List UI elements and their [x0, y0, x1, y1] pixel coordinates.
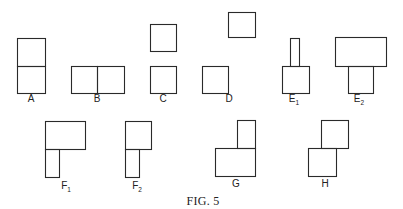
- shape-label-c: C: [159, 93, 166, 104]
- shape-g: G: [216, 121, 256, 190]
- shape-a: A: [18, 39, 46, 105]
- shape-h-square-2: [309, 149, 337, 177]
- shape-b-square-1: [72, 67, 98, 94]
- shape-a-square-1: [18, 39, 46, 67]
- shape-e2-square-2: [349, 67, 374, 94]
- shape-f1-square-1: [46, 122, 86, 150]
- shape-f2-square-2: [126, 150, 140, 178]
- shape-f2: F2: [126, 122, 152, 193]
- shape-c: C: [151, 25, 177, 105]
- shape-label-a: A: [28, 93, 35, 104]
- shape-h-square-1: [322, 121, 349, 149]
- shape-e1-square-1: [291, 39, 300, 67]
- shape-label-g: G: [232, 178, 240, 189]
- shape-label-subscript: 2: [138, 186, 142, 193]
- shape-g-square-1: [238, 121, 256, 149]
- shape-b: B: [72, 67, 125, 105]
- shape-c-square-1: [151, 25, 177, 52]
- shape-b-square-2: [98, 67, 125, 94]
- shape-label-b: B: [94, 93, 101, 104]
- shape-f2-square-1: [126, 122, 152, 150]
- shape-label-e1: E1: [289, 93, 300, 106]
- shape-g-square-2: [216, 149, 256, 177]
- shape-label-f1: F1: [61, 180, 71, 193]
- shape-d-square-1: [229, 13, 256, 38]
- shape-label-subscript: 2: [361, 99, 365, 106]
- shape-label-e2: E2: [354, 93, 365, 106]
- shape-e1-square-2: [283, 67, 310, 94]
- shape-a-square-2: [18, 67, 46, 94]
- shape-groups: ABCDE1E2F1F2GH: [18, 13, 387, 193]
- shape-label-subscript: 1: [296, 99, 300, 106]
- shape-label-h: H: [321, 178, 328, 189]
- figure-5-diagram: ABCDE1E2F1F2GH FIG. 5: [0, 0, 403, 209]
- shape-f1-square-2: [46, 150, 60, 178]
- shape-c-square-2: [151, 67, 177, 94]
- shape-e2-square-1: [336, 38, 387, 67]
- shape-d-square-2: [203, 67, 229, 94]
- shape-label-subscript: 1: [67, 186, 71, 193]
- shape-d: D: [203, 13, 256, 105]
- shape-h: H: [309, 121, 349, 190]
- shape-label-f2: F2: [132, 180, 142, 193]
- figure-caption: FIG. 5: [186, 194, 219, 208]
- shape-f1: F1: [46, 122, 86, 193]
- shape-e1: E1: [283, 39, 310, 106]
- shape-label-d: D: [225, 93, 232, 104]
- shape-e2: E2: [336, 38, 387, 106]
